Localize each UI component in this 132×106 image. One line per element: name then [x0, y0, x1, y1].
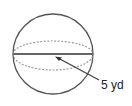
equator-front-dashed [13, 54, 93, 70]
radius-label: 5 yd [101, 78, 124, 92]
equator-back-dashed [13, 41, 93, 54]
